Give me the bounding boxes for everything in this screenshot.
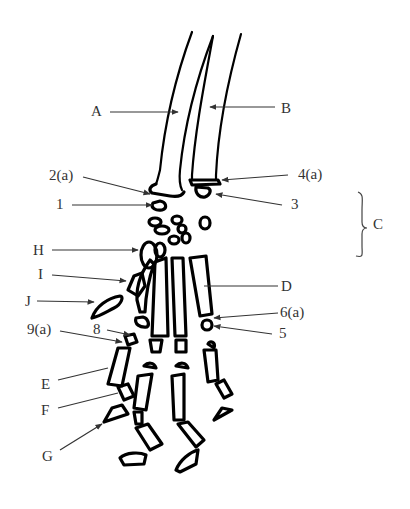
label-a: A (91, 104, 102, 119)
brace-c (356, 192, 367, 257)
label-b: B (281, 101, 291, 116)
carpal-1 (152, 201, 165, 210)
label-9a: 9(a) (27, 322, 51, 337)
phalanx-e (108, 348, 130, 386)
label-h: H (33, 243, 44, 258)
bone-drawing (0, 0, 410, 509)
leader-e (58, 368, 108, 380)
long-bone-b (190, 34, 241, 185)
digit-1 (104, 334, 137, 422)
leader-5 (214, 326, 272, 334)
metacarpal-3 (172, 258, 186, 336)
leader-i (52, 275, 126, 281)
leader-f (58, 393, 118, 408)
label-4a: 4(a) (298, 167, 322, 182)
phalanx-g (104, 405, 128, 422)
leader-6a (214, 313, 278, 318)
sesamoid-8 (136, 317, 149, 327)
leader-3 (216, 194, 282, 205)
long-bone-a (150, 32, 213, 196)
digit-4 (204, 342, 232, 420)
label-g: G (42, 449, 53, 464)
label-d: D (281, 279, 292, 294)
label-2a: 2(a) (49, 168, 73, 183)
leader-8 (107, 330, 130, 335)
leader-lines (37, 107, 288, 450)
sesamoid-9a (125, 334, 137, 345)
metacarpal-2 (152, 258, 168, 336)
sesamoid-5 (202, 320, 212, 330)
label-c: C (373, 217, 383, 232)
leader-9a (60, 331, 122, 342)
label-i: I (38, 267, 43, 282)
leader-2a (83, 177, 150, 194)
carpal-round (200, 217, 210, 229)
limb-skeleton-diagram: A B 2(a) 4(a) 1 3 C H I J D 6(a) 5 8 9(a… (0, 0, 410, 509)
label-f: F (41, 403, 49, 418)
bone-j (92, 296, 122, 318)
leader-g (60, 424, 102, 450)
label-8: 8 (93, 322, 101, 337)
leader-j (37, 301, 94, 302)
label-e: E (41, 377, 50, 392)
carpal-3 (196, 187, 210, 197)
leader-4a (222, 175, 288, 180)
label-6a: 6(a) (280, 305, 304, 320)
phalanx-f (118, 384, 134, 400)
digit-3 (172, 340, 204, 472)
label-j: J (25, 294, 31, 309)
label-3: 3 (291, 197, 299, 212)
label-5: 5 (279, 326, 287, 341)
label-1: 1 (56, 197, 64, 212)
